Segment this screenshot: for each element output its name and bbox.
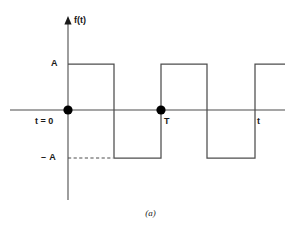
y-axis-label: f(t) <box>74 16 86 25</box>
square-wave-figure: f(t) A – A t = 0 T t (a) <box>0 0 301 240</box>
square-wave-trace <box>68 64 285 158</box>
origin-marker-dot <box>63 105 72 114</box>
x-axis-label: t <box>257 117 260 126</box>
figure-caption: (a) <box>0 208 301 218</box>
y-axis-arrow-icon <box>64 16 71 25</box>
amplitude-positive-label: A <box>51 59 58 68</box>
period-label: T <box>164 117 170 126</box>
amplitude-negative-label: – A <box>41 153 56 162</box>
origin-label: t = 0 <box>35 117 53 126</box>
period-marker-dot <box>156 105 165 114</box>
